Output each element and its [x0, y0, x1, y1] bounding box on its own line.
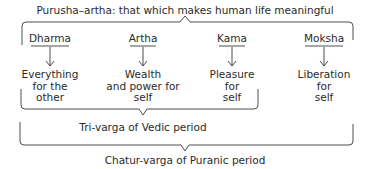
description-line: Pleasure	[187, 69, 277, 81]
tri-varga-label: Tri-varga of Vedic period	[43, 121, 243, 133]
description-line: Everything	[5, 69, 95, 81]
description-artha: Wealth and power for self	[98, 69, 188, 104]
label-dharma: Dharma	[10, 32, 90, 44]
label-artha: Artha	[103, 32, 183, 44]
arrow-kama	[228, 47, 236, 66]
description-line: self	[279, 92, 369, 104]
description-kama: Pleasure for self	[187, 69, 277, 104]
description-moksha: Liberation for self	[279, 69, 369, 104]
description-line: Wealth	[98, 69, 188, 81]
description-line: other	[5, 92, 95, 104]
arrow-dharma	[46, 47, 54, 66]
arrow-moksha	[320, 47, 328, 66]
description-dharma: Everything for the other	[5, 69, 95, 104]
description-line: Liberation	[279, 69, 369, 81]
diagram-title: Purusha–artha: that which makes human li…	[0, 4, 370, 16]
label-moksha: Moksha	[284, 32, 364, 44]
label-kama: Kama	[192, 32, 272, 44]
description-line: self	[98, 92, 188, 104]
description-line: self	[187, 92, 277, 104]
chatur-varga-label: Chatur-varga of Puranic period	[65, 154, 305, 166]
arrow-artha	[139, 47, 147, 66]
